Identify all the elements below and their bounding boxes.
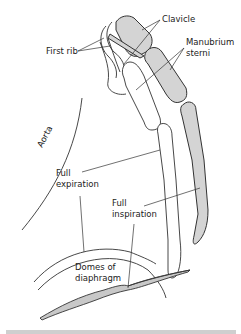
anatomy-diagram: Aorta Clavicle [0,0,241,334]
full-inspiration-label-line1: Full [112,198,127,208]
manubrium-label-line1: Manubrium [186,37,234,47]
aorta-curve [22,98,82,230]
leader-lines [78,20,200,288]
manubrium-label-line2: sterni [186,48,210,58]
domes-label-line2: diaphragm [75,273,121,283]
first-rib-label: First rib [46,46,78,56]
caption-fragment [6,330,236,334]
full-expiration-label-line2: expiration [56,179,99,189]
domes-label-line1: Domes of [75,262,117,272]
full-expiration-label-line1: Full [56,168,71,178]
sternum-body-shape [181,102,208,244]
full-inspiration-label-line2: inspiration [112,209,157,219]
aorta-label: Aorta [35,124,55,149]
clavicle-label: Clavicle [162,14,195,24]
